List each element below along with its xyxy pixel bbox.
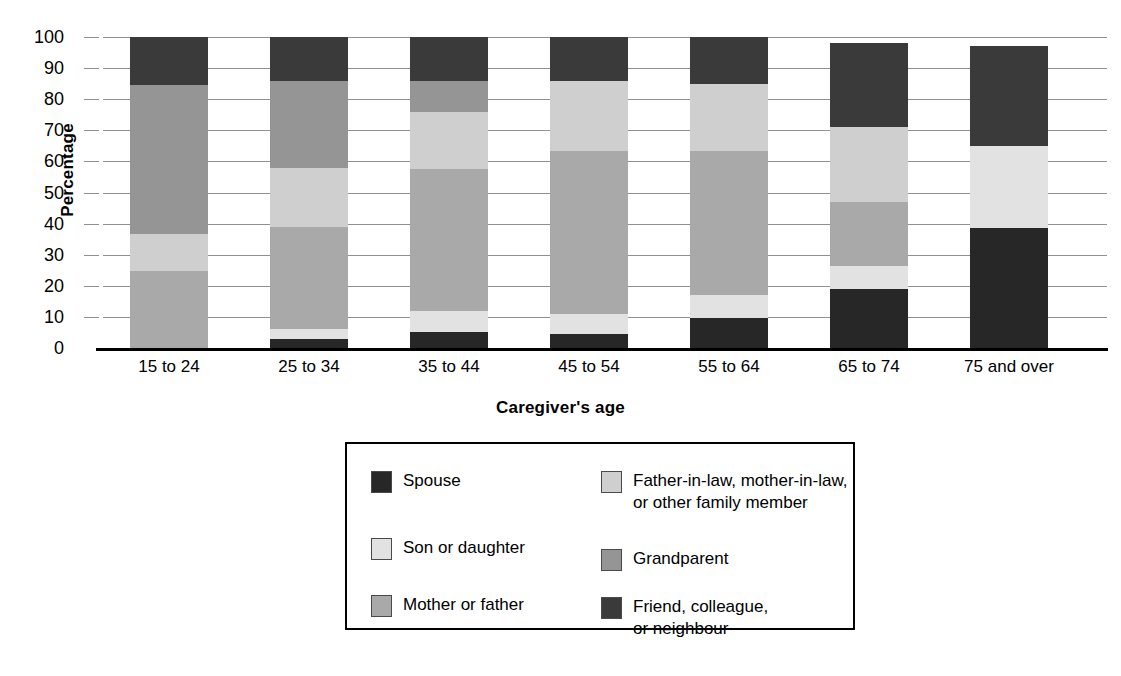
y-tick-mark xyxy=(84,286,99,287)
y-tick-label: 0 xyxy=(4,339,64,357)
y-tick-mark xyxy=(84,317,99,318)
bar-segment[interactable] xyxy=(690,84,768,151)
bar-segment[interactable] xyxy=(270,339,348,348)
bar-segment[interactable] xyxy=(410,332,488,348)
x-axis-baseline xyxy=(96,348,1108,351)
bar-segment[interactable] xyxy=(690,295,768,318)
y-tick-label: 100 xyxy=(4,28,64,46)
legend-swatch-icon xyxy=(371,538,392,560)
legend-label: Son or daughter xyxy=(403,537,525,559)
bar-segment[interactable] xyxy=(550,151,628,314)
legend-swatch-icon xyxy=(601,471,622,493)
legend: SpouseSon or daughterMother or father Fa… xyxy=(345,442,855,630)
y-tick-mark xyxy=(84,37,99,38)
y-tick-mark xyxy=(84,224,99,225)
y-tick-mark xyxy=(84,99,99,100)
bar-segment[interactable] xyxy=(690,318,768,348)
y-tick-mark xyxy=(84,193,99,194)
bar-segment[interactable] xyxy=(130,85,208,234)
y-tick-label: 80 xyxy=(4,90,64,108)
y-tick-label: 50 xyxy=(4,184,64,202)
y-tick-label: 30 xyxy=(4,246,64,264)
bar-segment[interactable] xyxy=(830,289,908,348)
y-tick-label: 60 xyxy=(4,152,64,170)
legend-label: Father-in-law, mother-in-law, or other f… xyxy=(633,470,847,515)
plot-area xyxy=(103,37,1107,348)
bar-segment[interactable] xyxy=(410,112,488,170)
legend-item[interactable]: Son or daughter xyxy=(371,537,525,560)
y-tick-mark xyxy=(84,68,99,69)
bar-segment[interactable] xyxy=(410,311,488,333)
bars-layer xyxy=(103,37,1107,348)
bar-segment[interactable] xyxy=(830,202,908,266)
bar-segment[interactable] xyxy=(970,228,1048,348)
y-tick-label: 90 xyxy=(4,59,64,77)
bar-stack[interactable] xyxy=(690,37,768,348)
bar-segment[interactable] xyxy=(550,37,628,81)
bar-segment[interactable] xyxy=(410,37,488,81)
legend-item[interactable]: Friend, colleague, or neighbour xyxy=(601,596,768,641)
y-tick-label: 70 xyxy=(4,121,64,139)
bar-segment[interactable] xyxy=(270,37,348,81)
legend-label: Mother or father xyxy=(403,594,524,616)
y-tick-label: 20 xyxy=(4,277,64,295)
legend-label: Spouse xyxy=(403,470,461,492)
legend-label: Grandparent xyxy=(633,548,728,570)
y-tick-mark xyxy=(84,161,99,162)
x-axis-label: 15 to 24 xyxy=(94,357,244,377)
stacked-bar-chart: Percentage 0102030405060708090100 15 to … xyxy=(0,0,1121,676)
y-tick-label: 10 xyxy=(4,308,64,326)
bar-segment[interactable] xyxy=(830,127,908,202)
bar-segment[interactable] xyxy=(130,234,208,271)
legend-column-left: SpouseSon or daughterMother or father xyxy=(371,444,601,628)
legend-swatch-icon xyxy=(371,595,392,617)
bar-segment[interactable] xyxy=(830,266,908,289)
bar-segment[interactable] xyxy=(410,81,488,112)
y-tick-mark xyxy=(84,255,99,256)
bar-stack[interactable] xyxy=(830,37,908,348)
legend-swatch-icon xyxy=(601,597,622,619)
bar-segment[interactable] xyxy=(270,329,348,338)
y-tick-mark xyxy=(84,130,99,131)
bar-segment[interactable] xyxy=(550,314,628,334)
bar-segment[interactable] xyxy=(410,169,488,311)
x-axis-label: 65 to 74 xyxy=(794,357,944,377)
legend-item[interactable]: Mother or father xyxy=(371,594,524,617)
legend-column-right: Father-in-law, mother-in-law, or other f… xyxy=(601,444,851,628)
bar-segment[interactable] xyxy=(970,46,1048,146)
bar-stack[interactable] xyxy=(550,37,628,348)
bar-segment[interactable] xyxy=(970,146,1048,228)
x-axis-label: 55 to 64 xyxy=(654,357,804,377)
legend-label: Friend, colleague, or neighbour xyxy=(633,596,768,641)
legend-item[interactable]: Grandparent xyxy=(601,548,728,571)
bar-stack[interactable] xyxy=(970,37,1048,348)
bar-segment[interactable] xyxy=(830,43,908,127)
bar-segment[interactable] xyxy=(270,81,348,168)
bar-segment[interactable] xyxy=(690,151,768,296)
x-axis-title: Caregiver's age xyxy=(0,398,1121,418)
legend-swatch-icon xyxy=(371,471,392,493)
bar-segment[interactable] xyxy=(270,168,348,227)
bar-stack[interactable] xyxy=(410,37,488,348)
x-axis-label: 25 to 34 xyxy=(234,357,384,377)
bar-segment[interactable] xyxy=(550,334,628,348)
bar-segment[interactable] xyxy=(130,271,208,348)
x-axis-label: 45 to 54 xyxy=(514,357,664,377)
bar-segment[interactable] xyxy=(130,37,208,85)
legend-item[interactable]: Spouse xyxy=(371,470,461,493)
bar-segment[interactable] xyxy=(690,37,768,84)
bar-stack[interactable] xyxy=(270,37,348,348)
x-axis-label: 75 and over xyxy=(934,357,1084,377)
bar-segment[interactable] xyxy=(270,227,348,330)
legend-item[interactable]: Father-in-law, mother-in-law, or other f… xyxy=(601,470,847,515)
bar-stack[interactable] xyxy=(130,37,208,348)
bar-segment[interactable] xyxy=(550,81,628,151)
y-tick-label: 40 xyxy=(4,215,64,233)
legend-swatch-icon xyxy=(601,549,622,571)
x-axis-label: 35 to 44 xyxy=(374,357,524,377)
